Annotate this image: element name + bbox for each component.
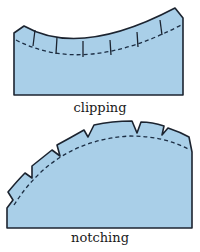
notching-label: notching [0,230,200,245]
clipping-figure [14,8,183,95]
clipping-label: clipping [0,100,200,115]
clipping-fabric-shape [14,8,183,95]
notching-fabric-shape [7,121,192,228]
notching-figure [7,121,192,228]
sewing-diagram [0,0,200,252]
